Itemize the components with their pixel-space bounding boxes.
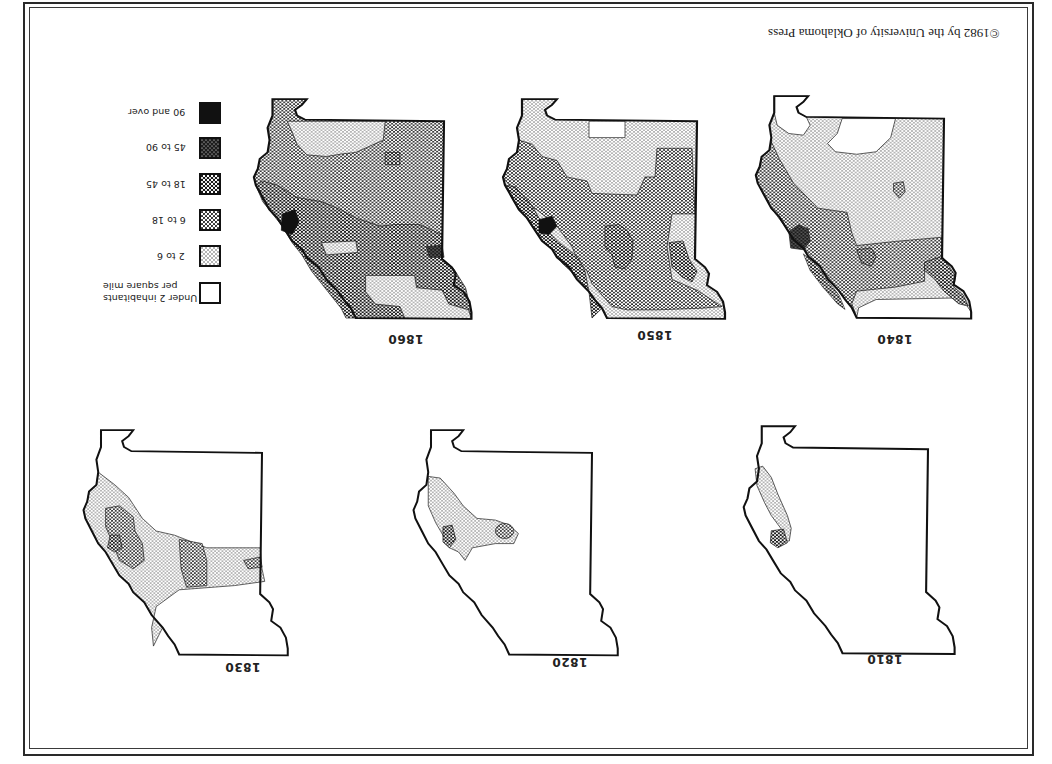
year-label-1840: 1840 bbox=[877, 332, 912, 346]
year-label-1810: 1810 bbox=[867, 652, 902, 666]
legend-label-90-over: 90 and over bbox=[128, 106, 185, 118]
legend-label-2-6: 2 to 6 bbox=[157, 250, 185, 262]
map-1840 bbox=[756, 96, 971, 318]
legend-swatch-18-45 bbox=[199, 173, 221, 195]
legend-label-18-45: 18 to 45 bbox=[146, 178, 186, 190]
map-1830 bbox=[84, 430, 288, 655]
year-label-1820: 1820 bbox=[552, 655, 587, 669]
legend-label-under-2-line2: per square mile bbox=[103, 280, 197, 292]
legend-swatch-2-6 bbox=[199, 245, 221, 267]
map-1850 bbox=[503, 99, 725, 319]
year-label-1830: 1830 bbox=[225, 660, 260, 674]
year-label-1860: 1860 bbox=[388, 332, 423, 346]
legend-swatch-6-18 bbox=[199, 209, 221, 231]
legend-swatch-45-90 bbox=[199, 137, 221, 159]
legend-label-under-2: Under 2 inhabitants per square mile bbox=[103, 280, 197, 304]
legend-swatch-90-over bbox=[199, 102, 221, 124]
legend-label-45-90: 45 to 90 bbox=[146, 141, 186, 153]
legend-label-under-2-line1: Under 2 inhabitants bbox=[103, 292, 197, 304]
map-1860 bbox=[254, 99, 472, 319]
map-1820 bbox=[414, 430, 618, 655]
map-1810 bbox=[744, 426, 955, 654]
year-label-1850: 1850 bbox=[637, 328, 672, 342]
legend-swatch-under-2 bbox=[199, 282, 221, 304]
legend-label-6-18: 6 to 18 bbox=[152, 214, 186, 226]
